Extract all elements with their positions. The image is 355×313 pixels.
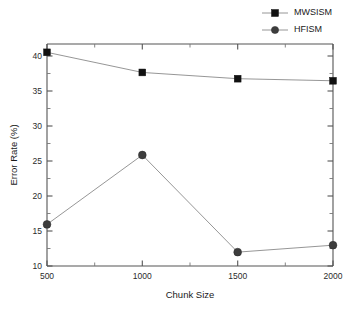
- series-line-hfism: [47, 155, 333, 252]
- series-hfism: [43, 151, 337, 256]
- chart-legend: MWSISM HFISM: [262, 7, 332, 34]
- data-point-hfism-500: [43, 220, 51, 228]
- data-point-hfism-1500: [234, 248, 242, 256]
- data-point-mwsism-500: [44, 49, 51, 56]
- y-tick-label-35: 35: [33, 86, 43, 96]
- data-point-mwsism-2000: [330, 77, 337, 84]
- x-axis-title: Chunk Size: [166, 289, 215, 300]
- data-point-mwsism-1000: [139, 69, 146, 76]
- y-axis-ticks: 10 15 20 25 30 35: [33, 51, 333, 271]
- error-rate-line-chart: MWSISM HFISM 10 15 20: [0, 0, 355, 313]
- x-tick-label-1000: 1000: [133, 271, 152, 281]
- legend-marker-circle-hfism: [271, 26, 278, 33]
- y-tick-label-10: 10: [33, 261, 43, 271]
- x-tick-label-1500: 1500: [228, 271, 247, 281]
- y-tick-label-40: 40: [33, 51, 43, 61]
- series-mwsism: [44, 49, 337, 84]
- data-series-layer: [43, 49, 337, 256]
- data-point-mwsism-1500: [234, 75, 241, 82]
- y-tick-label-25: 25: [33, 156, 43, 166]
- legend-marker-square-mwsism: [272, 10, 279, 17]
- x-tick-label-500: 500: [40, 271, 54, 281]
- plot-frame: [47, 44, 333, 266]
- x-tick-label-2000: 2000: [324, 271, 343, 281]
- legend-label-mwsism: MWSISM: [294, 7, 332, 17]
- chart-container: MWSISM HFISM 10 15 20: [0, 0, 355, 313]
- legend-label-hfism: HFISM: [294, 24, 322, 34]
- y-axis-title: Error Rate (%): [8, 124, 19, 185]
- y-tick-label-20: 20: [33, 191, 43, 201]
- data-point-hfism-1000: [138, 151, 146, 159]
- y-tick-label-30: 30: [33, 121, 43, 131]
- y-tick-label-15: 15: [33, 226, 43, 236]
- data-point-hfism-2000: [329, 241, 337, 249]
- series-line-mwsism: [47, 52, 333, 80]
